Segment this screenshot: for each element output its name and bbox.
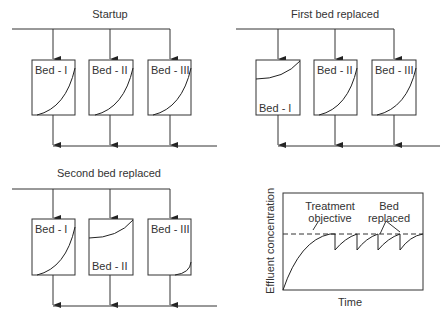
panel-title: First bed replaced [291,8,379,20]
panel-title: Startup [92,8,127,20]
y-axis-label: Effluent concentration [264,188,276,294]
bed-label: Bed - III [151,223,190,235]
concentration-curve [378,234,400,250]
annotation-objective: objective [308,212,351,224]
concentration-curve [335,234,357,250]
bed-label: Bed - III [375,64,414,76]
bed-replacement-diagram: Startup Bed - I Bed - II Bed - III First… [0,0,443,316]
bed-label: Bed - II [92,64,127,76]
annotation-bed: Bed [379,200,399,212]
bed-label: Bed - II [92,260,127,272]
annotation-replaced: replaced [368,212,410,224]
bed-label: Bed - I [35,223,67,235]
concentration-curve [357,234,378,250]
concentration-curve [400,234,423,250]
effluent-chart: Treatment objective Bed replaced Time Ef… [264,188,423,308]
concentration-curve [283,234,335,290]
panel-startup: Startup Bed - I Bed - II Bed - III [12,8,217,146]
bed-label: Bed - III [151,64,190,76]
panel-title: Second bed replaced [57,167,161,179]
bed-label: Bed - II [317,64,352,76]
x-axis-label: Time [338,296,362,308]
bed-label: Bed - I [35,64,67,76]
annotation-treatment: Treatment [305,200,355,212]
bed-label: Bed - I [259,102,291,114]
panel-first-bed-replaced: First bed replaced Bed - I Bed - II Bed … [236,8,440,146]
panel-second-bed-replaced: Second bed replaced Bed - I Bed - II Bed… [12,167,217,306]
